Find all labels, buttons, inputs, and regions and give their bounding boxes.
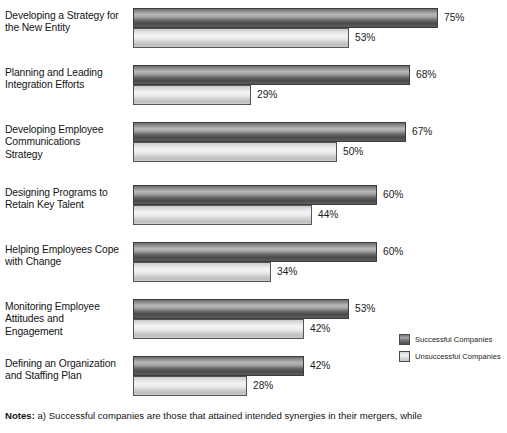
bar-track: 42% [133, 356, 364, 376]
bar-track: 44% [133, 205, 372, 225]
bar-chart: Developing a Strategy forthe New Entity7… [0, 0, 507, 433]
category-label: Designing Programs toRetain Key Talent [5, 187, 129, 212]
bar-unsuccessful [133, 319, 304, 339]
category-label-line: Integration Efforts [5, 79, 129, 91]
bar-value-label: 67% [412, 125, 432, 139]
bar-value-label: 68% [416, 68, 436, 82]
bar-value-label: 60% [383, 188, 403, 202]
category-label-line: Attitudes and [5, 313, 129, 325]
bar-value-label: 34% [277, 265, 297, 279]
category-label-line: Engagement [5, 326, 129, 338]
bar-track: 53% [133, 299, 409, 319]
category-label: Helping Employees Copewith Change [5, 244, 129, 269]
bar-value-label: 60% [383, 245, 403, 259]
category-label-line: Designing Programs to [5, 187, 129, 199]
chart-legend: Successful Companies Unsuccessful Compan… [399, 331, 507, 365]
bar-value-label: 44% [318, 208, 338, 222]
bar-track: 53% [133, 28, 409, 48]
bar-unsuccessful [133, 262, 271, 282]
notes-label: Notes: [5, 410, 35, 421]
legend-swatch-successful-icon [399, 334, 410, 345]
notes-text: a) Successful companies are those that a… [35, 410, 422, 421]
bar-track: 68% [133, 65, 470, 85]
category-label: Defining an Organizationand Staffing Pla… [5, 358, 129, 383]
bar-unsuccessful [133, 85, 251, 105]
category-label-line: Developing a Strategy for [5, 10, 129, 22]
bar-successful [133, 122, 406, 142]
bar-value-label: 53% [355, 302, 375, 316]
legend-item-unsuccessful: Unsuccessful Companies [399, 348, 507, 365]
category-label: Monitoring EmployeeAttitudes andEngageme… [5, 301, 129, 338]
legend-label-successful: Successful Companies [415, 335, 492, 345]
category-label-line: Developing Employee [5, 124, 129, 136]
category-label: Developing a Strategy forthe New Entity [5, 10, 129, 35]
category-label: Planning and LeadingIntegration Efforts [5, 67, 129, 92]
category-label-line: and Staffing Plan [5, 370, 129, 382]
bar-value-label: 75% [444, 11, 464, 25]
bar-track: 60% [133, 185, 437, 205]
category-label-line: Strategy [5, 149, 129, 161]
bar-track: 67% [133, 122, 466, 142]
bar-successful [133, 8, 438, 28]
category-label: Developing EmployeeCommunicationsStrateg… [5, 124, 129, 161]
category-label-line: Monitoring Employee [5, 301, 129, 313]
category-label-line: with Change [5, 256, 129, 268]
bar-track: 42% [133, 319, 364, 339]
legend-label-unsuccessful: Unsuccessful Companies [415, 352, 501, 362]
bar-track: 60% [133, 242, 437, 262]
bar-track: 50% [133, 142, 397, 162]
bar-successful [133, 185, 377, 205]
bar-unsuccessful [133, 376, 247, 396]
bar-track: 34% [133, 262, 331, 282]
legend-swatch-unsuccessful-icon [399, 351, 410, 362]
chart-notes: Notes: a) Successful companies are those… [5, 409, 503, 422]
bar-unsuccessful [133, 142, 337, 162]
category-label-line: Communications [5, 136, 129, 148]
bar-value-label: 42% [310, 359, 330, 373]
bar-track: 29% [133, 85, 311, 105]
bar-value-label: 53% [355, 31, 375, 45]
category-label-line: Retain Key Talent [5, 199, 129, 211]
bar-unsuccessful [133, 205, 312, 225]
bar-value-label: 28% [253, 379, 273, 393]
category-label-line: Helping Employees Cope [5, 244, 129, 256]
bar-unsuccessful [133, 28, 349, 48]
bar-track: 75% [133, 8, 498, 28]
bar-successful [133, 299, 349, 319]
bar-track: 28% [133, 376, 307, 396]
bar-successful [133, 65, 410, 85]
legend-item-successful: Successful Companies [399, 331, 507, 348]
category-label-line: Planning and Leading [5, 67, 129, 79]
category-label-line: Defining an Organization [5, 358, 129, 370]
bar-value-label: 29% [257, 88, 277, 102]
bar-value-label: 42% [310, 322, 330, 336]
bar-successful [133, 356, 304, 376]
bar-value-label: 50% [343, 145, 363, 159]
bar-successful [133, 242, 377, 262]
category-label-line: the New Entity [5, 22, 129, 34]
